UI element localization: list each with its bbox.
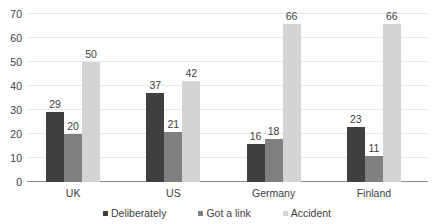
legend-label: Deliberately [111,208,166,219]
bar-value-label: 23 [341,114,371,125]
legend-item[interactable]: Accident [283,208,331,219]
bar-value-label: 42 [176,68,206,79]
bar [383,24,401,182]
bar-group: 372142 [127,14,227,182]
bar-group: 231166 [328,14,428,182]
legend-swatch-icon [103,211,108,216]
legend-label: Accident [291,208,331,219]
legend-swatch-icon [198,211,203,216]
y-axis-tick-label: 60 [0,33,22,43]
bar-value-label: 66 [277,11,307,22]
bar-value-label: 66 [377,11,407,22]
bar [265,139,283,182]
y-axis-tick-label: 30 [0,105,22,115]
legend-item[interactable]: Got a link [198,208,250,219]
bar [64,134,82,182]
bar [365,156,383,182]
y-axis-tick-label: 70 [0,9,22,19]
x-axis-category-label: US [123,186,223,200]
legend-swatch-icon [283,211,288,216]
bar [182,81,200,182]
bar [164,132,182,182]
x-axis-category-label: UK [23,186,123,200]
bar [347,127,365,182]
bar-value-label: 29 [40,99,70,110]
bar [146,93,164,182]
bar [247,144,265,182]
y-axis-tick-label: 0 [0,177,22,187]
y-axis-tick-label: 50 [0,57,22,67]
y-axis-tick-label: 10 [0,153,22,163]
chart-legend: DeliberatelyGot a linkAccident [0,205,434,221]
x-axis: UKUSGermanyFinland [27,186,428,202]
bar-groups: 292050372142161866231166 [27,14,428,182]
bar-chart: 010203040506070 292050372142161866231166… [0,0,434,224]
y-axis-tick-label: 40 [0,81,22,91]
y-axis-tick-label: 20 [0,129,22,139]
x-axis-category-label: Germany [224,186,324,200]
bar [283,24,301,182]
bar-value-label: 50 [76,49,106,60]
bar-group: 161866 [228,14,328,182]
y-axis: 010203040506070 [0,0,24,224]
legend-item[interactable]: Deliberately [103,208,166,219]
bar [82,62,100,182]
bar-value-label: 37 [140,80,170,91]
x-axis-category-label: Finland [324,186,424,200]
legend-label: Got a link [206,208,250,219]
bar-group: 292050 [27,14,127,182]
